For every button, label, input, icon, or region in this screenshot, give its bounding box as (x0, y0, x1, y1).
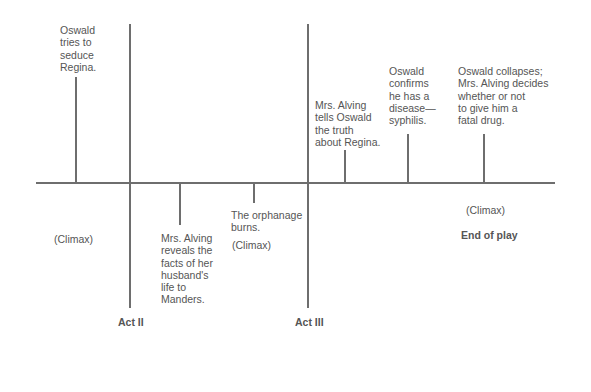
event-tick-syphilis (407, 134, 409, 183)
event-tick-collapse (483, 134, 485, 183)
climax-note-seduce: (Climax) (54, 233, 93, 245)
event-tick-truth (344, 150, 346, 183)
act-ii-divider (129, 24, 131, 308)
act-iii-divider (307, 24, 309, 308)
event-label-seduce: Oswald tries to seduce Regina. (60, 24, 96, 73)
event-label-syphilis: Oswald confirms he has a disease— syphil… (389, 65, 436, 126)
event-label-reveals: Mrs. Alving reveals the facts of her hus… (161, 232, 213, 306)
act-ii-label: Act II (118, 316, 144, 328)
event-tick-seduce (75, 77, 77, 183)
act-iii-label: Act III (295, 316, 324, 328)
event-label-collapse: Oswald collapses; Mrs. Alving decides wh… (458, 65, 548, 126)
event-tick-orphanage (253, 183, 255, 203)
event-tick-reveals (179, 183, 181, 225)
climax-note-collapse: (Climax) (466, 204, 505, 216)
event-label-orphanage: The orphanage burns. (231, 209, 302, 234)
event-label-truth: Mrs. Alving tells Oswald the truth about… (315, 99, 380, 148)
climax-note-orphanage: (Climax) (232, 239, 271, 251)
end-of-play-label: End of play (461, 229, 518, 241)
timeline-axis (36, 182, 555, 184)
